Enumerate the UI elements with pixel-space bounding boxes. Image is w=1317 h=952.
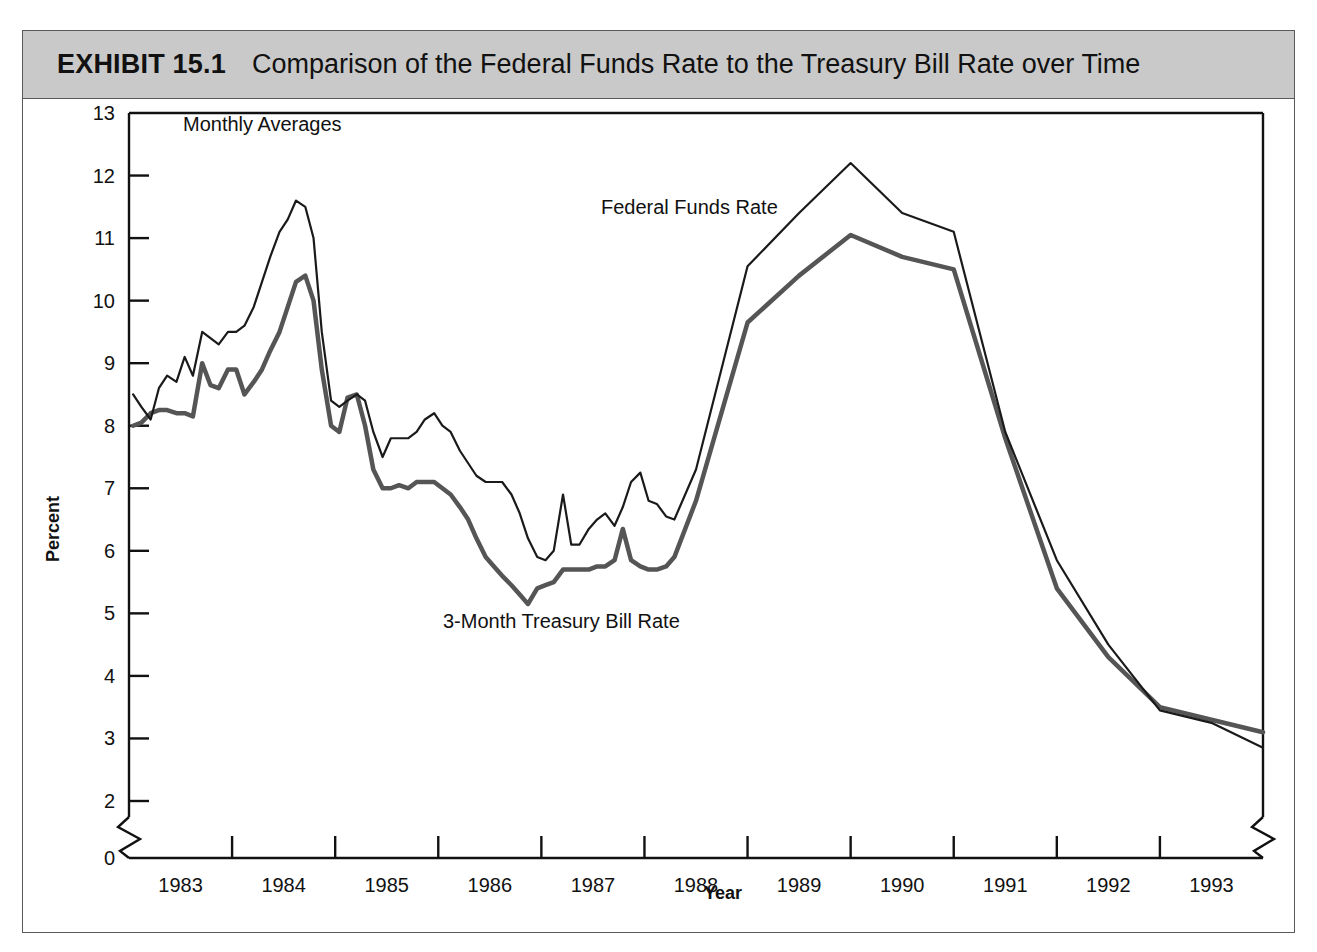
x-tick-label: 1985 [364,874,409,896]
y-tick-label: 3 [104,727,115,749]
y-tick-label: 8 [104,415,115,437]
exhibit-title-band: EXHIBIT 15.1 Comparison of the Federal F… [23,31,1294,99]
y-tick-label: 12 [93,165,115,187]
annotation-federal-funds-rate: Federal Funds Rate [601,196,778,218]
y-tick-label: 9 [104,352,115,374]
x-tick-label: 1984 [261,874,306,896]
x-axis-label: Year [704,883,742,903]
chart-axes [118,113,1274,858]
annotation-treasury-bill-rate: 3-Month Treasury Bill Rate [443,610,680,632]
x-tick-label: 1986 [468,874,513,896]
y-tick-label: 7 [104,477,115,499]
annotation-monthly-averages: Monthly Averages [183,113,342,135]
exhibit-frame: EXHIBIT 15.1 Comparison of the Federal F… [22,30,1295,933]
y-axis-label: Percent [43,496,63,562]
x-tick-label: 1992 [1086,874,1131,896]
y-tick-label: 10 [93,290,115,312]
y-axis-ticks: 02345678910111213 [93,102,149,869]
chart-plot-area: 02345678910111213 1983198419851986198719… [23,99,1294,932]
x-tick-label: 1991 [983,874,1028,896]
y-tick-label: 5 [104,602,115,624]
x-tick-label: 1990 [880,874,925,896]
series-line-3-month-treasury-bill-rate [133,235,1263,732]
y-tick-label: 11 [94,227,115,249]
series-line-federal-funds-rate [133,163,1263,748]
y-tick-label: 0 [104,847,115,869]
x-tick-label: 1993 [1189,874,1234,896]
y-tick-label: 2 [104,790,115,812]
x-tick-label: 1983 [158,874,203,896]
x-tick-label: 1989 [777,874,822,896]
chart-series [133,163,1263,748]
x-tick-label: 1987 [571,874,616,896]
y-tick-label: 4 [104,665,115,687]
exhibit-number: EXHIBIT 15.1 [57,49,226,80]
exhibit-title: Comparison of the Federal Funds Rate to … [252,49,1140,80]
line-chart: 02345678910111213 1983198419851986198719… [23,99,1293,932]
y-tick-label: 6 [104,540,115,562]
y-tick-label: 13 [93,102,115,124]
x-axis-ticks: 1983198419851986198719881989199019911992… [158,836,1233,896]
